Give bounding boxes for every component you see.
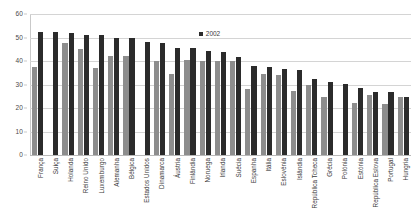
- x-axis-label-cell: Áustria: [167, 156, 182, 224]
- bar-group: [259, 14, 274, 155]
- bar: [175, 48, 180, 155]
- bar-group: [243, 14, 258, 155]
- bar: [373, 92, 378, 155]
- bar-group: [167, 14, 182, 155]
- x-axis-label-cell: Luxemburgo: [91, 156, 106, 224]
- bar-group: [350, 14, 365, 155]
- bar: [276, 75, 281, 155]
- bar: [261, 74, 266, 155]
- bar-chart: 2002 0102030405060 FrançaSuíçaHolandaRei…: [0, 0, 419, 224]
- x-axis-category-label: Alemanha: [114, 158, 120, 187]
- bar: [38, 32, 43, 155]
- bar: [352, 103, 357, 155]
- bar-group: [213, 14, 228, 155]
- bar: [62, 43, 67, 155]
- bar: [200, 61, 205, 155]
- bar-group: [396, 14, 411, 155]
- bar-group: [198, 14, 213, 155]
- x-axis-category-label: Reino Unido: [83, 158, 89, 193]
- bar: [312, 79, 317, 155]
- x-axis-category-label: Áustria: [175, 158, 181, 178]
- y-axis-labels: 0102030405060: [0, 14, 27, 155]
- x-axis-category-label: Polónia: [342, 158, 348, 179]
- bar: [398, 97, 403, 155]
- x-axis-category-label: Itália: [266, 158, 272, 172]
- bar: [99, 35, 104, 155]
- bar: [245, 89, 250, 155]
- x-axis-label-cell: Eslovénia: [274, 156, 289, 224]
- x-axis-category-label: Suécia: [236, 158, 242, 178]
- x-axis-label-cell: Noruega: [198, 156, 213, 224]
- x-axis-label-cell: Suécia: [228, 156, 243, 224]
- y-axis-tick: [24, 61, 27, 62]
- bar: [78, 49, 83, 155]
- bar-group: [152, 14, 167, 155]
- y-axis-tick: [24, 108, 27, 109]
- x-axis-category-label: Hungria: [403, 158, 409, 180]
- y-axis-tick: [24, 84, 27, 85]
- bar-group: [45, 14, 60, 155]
- x-axis-label-cell: Suíça: [45, 156, 60, 224]
- bar: [230, 61, 235, 155]
- bar-group: [289, 14, 304, 155]
- y-axis-tick: [24, 14, 27, 15]
- x-axis-label-cell: Reino Unido: [76, 156, 91, 224]
- bar: [404, 97, 409, 155]
- x-axis-labels: FrançaSuíçaHolandaReino UnidoLuxemburgoA…: [30, 156, 411, 224]
- bar: [32, 67, 37, 155]
- x-axis-label-cell: Estónia: [350, 156, 365, 224]
- bar: [69, 33, 74, 155]
- bar: [190, 48, 195, 155]
- bar: [129, 38, 134, 155]
- bar-group: [365, 14, 380, 155]
- bar: [306, 85, 311, 155]
- x-axis-label-cell: Finlândia: [182, 156, 197, 224]
- x-axis-category-label: Irlanda: [220, 158, 226, 178]
- plot-area: [30, 14, 411, 155]
- bar: [169, 74, 174, 155]
- y-axis-tick: [24, 131, 27, 132]
- y-axis-tick-label: 60: [16, 11, 23, 18]
- x-axis-category-label: Holanda: [68, 158, 74, 182]
- x-axis-category-label: Grécia: [327, 158, 333, 177]
- bars-layer: [30, 14, 411, 155]
- bar-group: [319, 14, 334, 155]
- x-axis-category-label: Luxemburgo: [99, 158, 105, 194]
- x-axis-category-label: Finlândia: [190, 158, 196, 184]
- bar: [267, 67, 272, 155]
- bar-group: [228, 14, 243, 155]
- x-axis-category-label: Eslovénia: [281, 158, 287, 186]
- x-axis-category-label: Portugal: [388, 158, 394, 182]
- x-axis-category-label: Estados Unidos: [144, 158, 150, 203]
- x-axis-category-label: República Eslova: [373, 158, 379, 207]
- x-axis-label-cell: Estados Unidos: [137, 156, 152, 224]
- bar: [123, 56, 128, 155]
- x-axis-label-cell: Bélgica: [121, 156, 136, 224]
- x-axis-label-cell: Dinamarca: [152, 156, 167, 224]
- x-axis-category-label: Islândia: [297, 158, 303, 180]
- bar: [215, 61, 220, 155]
- x-axis-category-label: Dinamarca: [159, 158, 165, 189]
- y-axis-tick-label: 50: [16, 34, 23, 41]
- bar-group: [30, 14, 45, 155]
- bar: [236, 57, 241, 155]
- x-axis-label-cell: Islândia: [289, 156, 304, 224]
- bar: [84, 35, 89, 155]
- bar-group: [335, 14, 350, 155]
- bar: [93, 68, 98, 155]
- bar: [145, 42, 150, 155]
- bar: [154, 61, 159, 155]
- x-axis-category-label: Espanha: [251, 158, 257, 183]
- y-axis-tick-label: 0: [19, 152, 23, 159]
- bar: [282, 69, 287, 155]
- bar: [328, 82, 333, 155]
- x-axis-label-cell: França: [30, 156, 45, 224]
- bar: [382, 104, 387, 155]
- bar: [321, 97, 326, 155]
- x-axis-label-cell: Polónia: [335, 156, 350, 224]
- y-axis-tick-label: 40: [16, 58, 23, 65]
- bar: [358, 88, 363, 155]
- y-axis-tick: [24, 37, 27, 38]
- bar: [343, 84, 348, 155]
- y-axis-tick-label: 10: [16, 128, 23, 135]
